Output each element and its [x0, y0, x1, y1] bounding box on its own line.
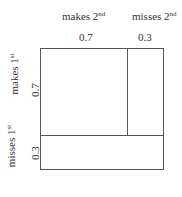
- area-diagram: [0, 0, 182, 197]
- outer-box: [41, 49, 164, 170]
